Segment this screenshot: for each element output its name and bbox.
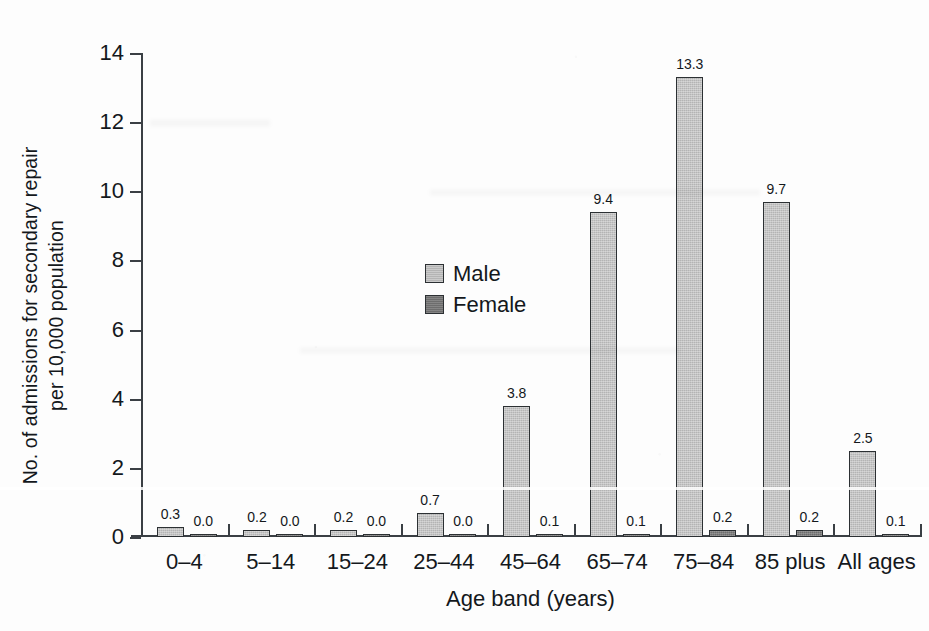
y-axis-title-line1: No. of admissions for secondary repair <box>17 147 43 485</box>
bar-value-label-male: 9.4 <box>593 191 612 207</box>
bar-value-label-female: 0.0 <box>194 513 213 529</box>
bar-female[interactable] <box>623 534 650 537</box>
legend-swatch-icon <box>425 264 444 283</box>
bar-female[interactable] <box>882 534 909 537</box>
y-axis-title: No. of admissions for secondary repair p… <box>0 0 86 631</box>
y-axis-tick <box>130 53 141 55</box>
legend-item-female[interactable]: Female <box>425 289 526 320</box>
y-axis-tick <box>130 260 141 262</box>
bar-value-label-female: 0.1 <box>626 513 645 529</box>
bar-female[interactable] <box>363 534 390 537</box>
bar-group: 0.30.00–4 <box>141 53 228 537</box>
legend-label: Female <box>453 292 526 318</box>
y-axis-tick-label: 10 <box>100 178 124 204</box>
y-axis-tick-label: 8 <box>112 247 124 273</box>
bar-value-label-male: 0.7 <box>420 492 439 508</box>
bar-group: 0.20.015–24 <box>314 53 401 537</box>
bar-group: 13.30.275–84 <box>660 53 747 537</box>
x-axis-title: Age band (years) <box>141 586 920 612</box>
bar-female[interactable] <box>449 534 476 537</box>
plot-area: 02468101214 0.30.00–40.20.05–140.20.015–… <box>141 53 920 537</box>
y-axis-tick <box>130 468 141 470</box>
y-axis-tick <box>130 537 141 539</box>
bar-female[interactable] <box>276 534 303 537</box>
legend: MaleFemale <box>425 258 526 320</box>
bar-female[interactable] <box>709 530 736 537</box>
bar-value-label-male: 9.7 <box>767 181 786 197</box>
legend-label: Male <box>453 261 501 287</box>
bar-value-label-female: 0.2 <box>799 509 818 525</box>
y-axis-tick-label: 0 <box>112 524 124 550</box>
y-axis-tick <box>130 399 141 401</box>
y-axis-tick-label: 6 <box>112 317 124 343</box>
bar-value-label-female: 0.1 <box>886 513 905 529</box>
bar-value-label-male: 0.2 <box>247 509 266 525</box>
x-axis-category-label: 85 plus <box>755 549 826 575</box>
x-axis-category-label: 15–24 <box>327 549 388 575</box>
bar-male[interactable] <box>417 513 444 537</box>
bar-group: 2.50.1All ages <box>833 53 920 537</box>
y-axis-tick-label: 4 <box>112 386 124 412</box>
bar-value-label-female: 0.2 <box>713 509 732 525</box>
x-axis-category-label: 5–14 <box>246 549 295 575</box>
x-axis-tick <box>920 524 922 537</box>
bar-value-label-female: 0.1 <box>540 513 559 529</box>
legend-item-male[interactable]: Male <box>425 258 526 289</box>
bar-male[interactable] <box>849 451 876 537</box>
bar-value-label-male: 0.2 <box>334 509 353 525</box>
bar-female[interactable] <box>536 534 563 537</box>
bar-male[interactable] <box>157 527 184 537</box>
x-axis-category-label: All ages <box>838 549 916 575</box>
y-axis-tick <box>130 122 141 124</box>
bar-male[interactable] <box>676 77 703 537</box>
x-axis-category-label: 25–44 <box>413 549 474 575</box>
bar-value-label-male: 3.8 <box>507 385 526 401</box>
bar-value-label-female: 0.0 <box>280 513 299 529</box>
bar-group: 9.70.285 plus <box>747 53 834 537</box>
bar-value-label-male: 2.5 <box>853 430 872 446</box>
bar-value-label-female: 0.0 <box>367 513 386 529</box>
x-axis-category-label: 0–4 <box>166 549 203 575</box>
x-axis-category-label: 45–64 <box>500 549 561 575</box>
legend-swatch-icon <box>425 295 444 314</box>
bar-male[interactable] <box>503 406 530 537</box>
bar-male[interactable] <box>763 202 790 537</box>
y-axis-title-line2: per 10,000 population <box>43 147 69 485</box>
bar-male[interactable] <box>243 530 270 537</box>
bar-group: 9.40.165–74 <box>574 53 661 537</box>
figure-canvas: No. of admissions for secondary repair p… <box>0 0 929 631</box>
bar-value-label-female: 0.0 <box>453 513 472 529</box>
bar-value-label-male: 0.3 <box>161 506 180 522</box>
y-axis-tick <box>130 191 141 193</box>
x-axis-category-label: 75–84 <box>673 549 734 575</box>
bar-male[interactable] <box>330 530 357 537</box>
bar-male[interactable] <box>590 212 617 537</box>
y-axis-tick-label: 12 <box>100 109 124 135</box>
y-axis-tick <box>130 330 141 332</box>
bar-female[interactable] <box>796 530 823 537</box>
x-axis-category-label: 65–74 <box>586 549 647 575</box>
y-axis-tick-label: 14 <box>100 40 124 66</box>
bar-group: 0.20.05–14 <box>228 53 315 537</box>
bar-value-label-male: 13.3 <box>676 56 703 72</box>
y-axis-tick-label: 2 <box>112 455 124 481</box>
bar-female[interactable] <box>190 534 217 537</box>
